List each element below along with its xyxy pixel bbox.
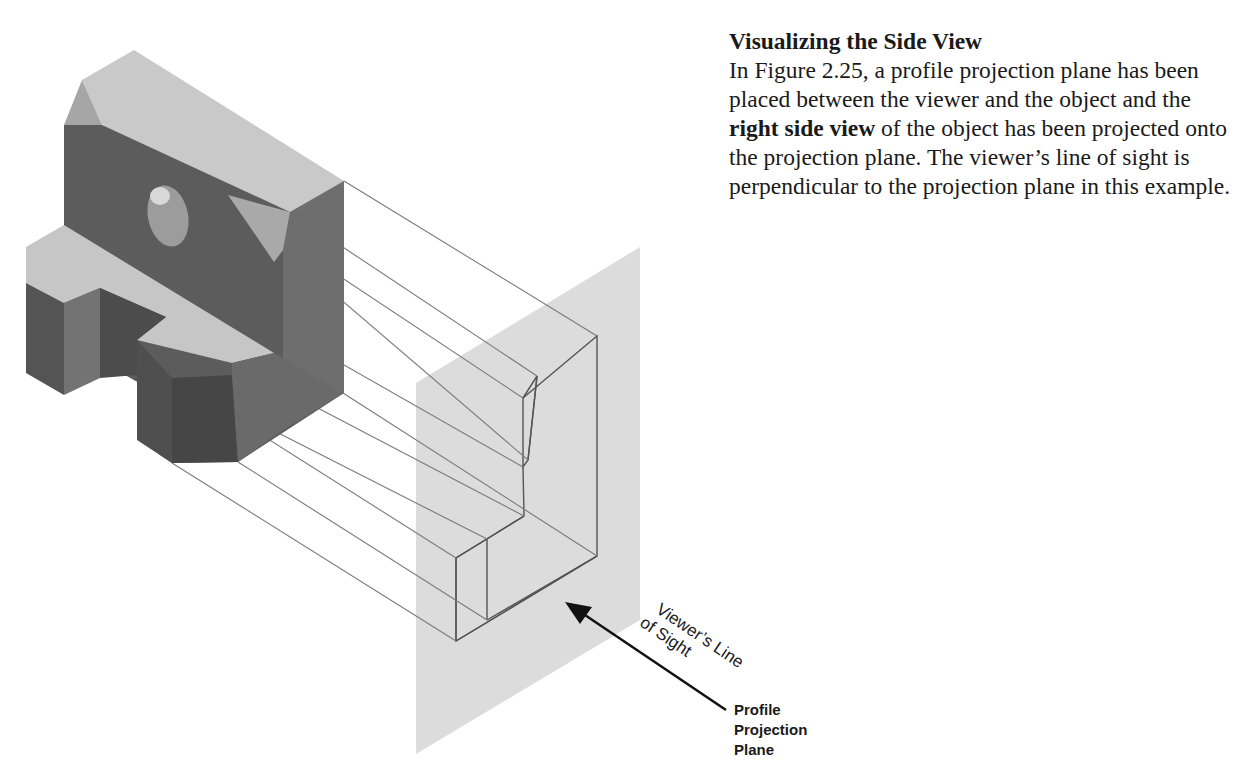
three-d-object bbox=[26, 50, 344, 463]
profile-plane-label-1: Profile bbox=[734, 701, 781, 718]
section-heading: Visualizing the Side View bbox=[729, 27, 1234, 56]
boss-dark-face bbox=[172, 375, 238, 463]
profile-plane-label-3: Plane bbox=[734, 741, 774, 758]
profile-projection-plane bbox=[416, 247, 640, 754]
hole-highlight bbox=[150, 187, 170, 205]
line-of-sight-label: Viewer’s Line of Sight bbox=[637, 596, 748, 688]
profile-plane-label: Profile Projection Plane bbox=[734, 701, 807, 758]
paragraph-part-1: In Figure 2.25, a profile projection pla… bbox=[729, 57, 1199, 112]
body-paragraph: In Figure 2.25, a profile projection pla… bbox=[729, 56, 1234, 201]
paragraph-bold-term: right side view bbox=[729, 115, 875, 141]
side-view-text-section: Visualizing the Side View In Figure 2.25… bbox=[729, 27, 1234, 201]
base-left-side-face bbox=[64, 288, 100, 395]
profile-plane-label-2: Projection bbox=[734, 721, 807, 738]
